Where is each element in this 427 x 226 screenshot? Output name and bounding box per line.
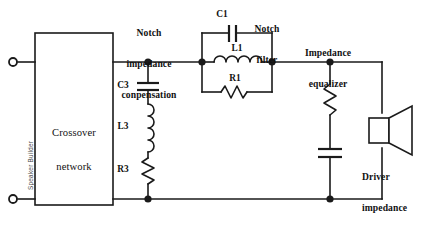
crossover-network-label-line1: Crossover [35,127,113,138]
driver-impedance-label: Driver impedance = R2 [362,151,424,226]
circuit-diagram: Crossover network Speaker Builder Notch … [0,0,427,226]
crossover-network-label: Crossover network [35,104,113,196]
notch-compensation-line1: Notch [110,28,188,38]
driver-impedance-line2: impedance [362,203,424,213]
node-equalizer-bottom [326,195,333,202]
impedance-equalizer-line1: Impedance [288,48,368,58]
c3-label: C3 [112,80,134,90]
c1-label: C1 [213,9,231,19]
r3-label: R3 [112,164,134,174]
node-notch-compensation-bottom [144,195,151,202]
impedance-equalizer-label: Impedance equalizer [288,27,368,110]
notch-filter-line2: filter [241,55,293,65]
notch-compensation-line3: conpensation [110,90,188,100]
impedance-equalizer-line2: equalizer [288,79,368,89]
l1-label: L1 [228,43,246,53]
crossover-network-label-line2: network [35,161,113,172]
node-notch-filter-left [198,58,205,65]
r1-label: R1 [226,73,244,83]
input-positive-terminal[interactable] [9,58,17,66]
notch-impedance-compensation-label: Notch impedance conpensation [110,7,188,121]
notch-filter-label: Notch filter [241,3,293,86]
input-negative-terminal[interactable] [9,195,17,203]
speaker-cone [389,106,412,155]
notch-filter-line1: Notch [241,24,293,34]
l3-label: L3 [112,121,134,131]
speaker-builder-watermark: Speaker Builder [27,141,34,190]
r3-resistor-zigzag [142,158,154,184]
speaker-magnet-body [369,118,389,143]
notch-compensation-line2: impedance [110,59,188,69]
driver-impedance-line1: Driver [362,172,424,182]
r1-resistor-zigzag [221,86,247,98]
